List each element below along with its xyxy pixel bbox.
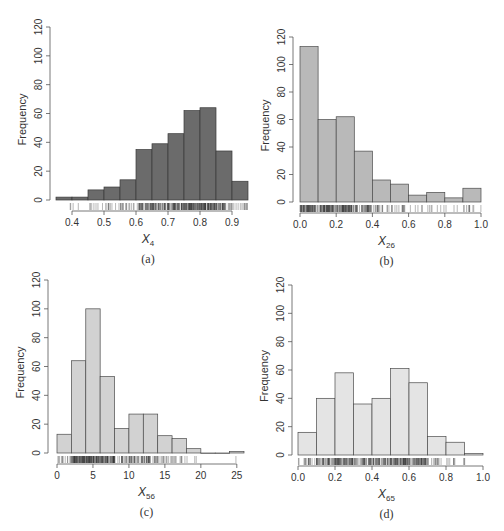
y-tick-label: 20 bbox=[33, 165, 44, 177]
y-tick-label: 40 bbox=[31, 389, 42, 401]
x-tick-label: 1.0 bbox=[474, 219, 488, 230]
y-tick-label: 0 bbox=[275, 452, 286, 458]
histogram-bar bbox=[428, 437, 447, 455]
y-axis-label: Frequency bbox=[258, 350, 270, 402]
histogram-bar bbox=[168, 134, 184, 200]
x-tick-label: 0.4 bbox=[365, 219, 379, 230]
histogram-bar bbox=[158, 436, 172, 453]
histogram-bar bbox=[120, 180, 136, 200]
histogram-bar bbox=[427, 192, 445, 202]
y-axis-label: Frequency bbox=[259, 99, 271, 151]
y-axis: 020406080100120Frequency bbox=[16, 18, 50, 203]
x-tick-label: 0.5 bbox=[97, 217, 111, 228]
x-tick-label: 0.8 bbox=[438, 219, 452, 230]
x-axis: 0.40.50.60.70.80.9X4 bbox=[65, 211, 239, 248]
x-tick-label: 0.0 bbox=[293, 219, 307, 230]
x-axis-label: X4 bbox=[141, 232, 155, 248]
rug-plot bbox=[70, 203, 247, 210]
y-tick-label: 60 bbox=[33, 108, 44, 120]
x-tick-label: 15 bbox=[159, 470, 171, 481]
x-tick-label: 0.9 bbox=[225, 217, 239, 228]
y-tick-label: 40 bbox=[33, 136, 44, 148]
histogram-bar bbox=[354, 404, 373, 455]
histogram-bars bbox=[56, 108, 248, 200]
histogram-bar bbox=[335, 373, 354, 455]
panel-caption: (a) bbox=[141, 252, 154, 266]
histogram-bar bbox=[354, 151, 372, 202]
histogram-bar bbox=[136, 150, 152, 200]
x-axis: 0510152025X56 bbox=[54, 464, 243, 501]
histogram-bar bbox=[115, 428, 129, 453]
x-tick-label: 0.2 bbox=[328, 472, 342, 483]
panel-d: 020406080100120Frequency0.00.20.40.60.81… bbox=[258, 276, 490, 521]
x-axis-label: X26 bbox=[377, 234, 395, 250]
histogram-bar bbox=[71, 361, 85, 453]
y-tick-label: 120 bbox=[33, 18, 44, 35]
x-tick-label: 25 bbox=[231, 470, 243, 481]
rug-plot bbox=[298, 458, 464, 465]
y-axis-label: Frequency bbox=[14, 346, 26, 398]
x-tick-label: 0.7 bbox=[161, 217, 175, 228]
y-tick-label: 0 bbox=[276, 199, 287, 205]
histogram-bar bbox=[463, 188, 481, 202]
histogram-bar bbox=[300, 47, 318, 202]
panel-caption: (d) bbox=[380, 507, 394, 521]
y-tick-label: 100 bbox=[275, 305, 286, 322]
y-tick-label: 80 bbox=[31, 332, 42, 344]
histogram-bars bbox=[57, 309, 244, 454]
histogram-bar bbox=[372, 398, 391, 455]
panel-a: 020406080100120Frequency0.40.50.60.70.80… bbox=[16, 18, 248, 266]
x-axis: 0.00.20.40.60.81.0X26 bbox=[293, 213, 488, 250]
y-tick-label: 120 bbox=[31, 271, 42, 288]
histogram-bar bbox=[215, 453, 229, 454]
x-tick-label: 0.8 bbox=[439, 472, 453, 483]
histogram-bar bbox=[184, 111, 200, 200]
y-axis: 020406080100120Frequency bbox=[259, 28, 293, 205]
y-axis: 020406080100120Frequency bbox=[258, 276, 292, 458]
x-axis-label: X65 bbox=[377, 487, 395, 503]
histogram-bar bbox=[88, 190, 104, 200]
histogram-bar bbox=[409, 383, 428, 455]
x-tick-label: 0.0 bbox=[291, 472, 305, 483]
panel-b: 020406080100120Frequency0.00.20.40.60.81… bbox=[259, 28, 488, 268]
panel-c: 020406080100120Frequency0510152025X56(c) bbox=[14, 271, 244, 519]
y-tick-label: 20 bbox=[276, 169, 287, 181]
y-tick-label: 80 bbox=[276, 86, 287, 98]
panel-caption: (b) bbox=[380, 254, 394, 268]
y-tick-label: 60 bbox=[275, 364, 286, 376]
y-tick-label: 0 bbox=[31, 450, 42, 456]
histogram-bar bbox=[152, 144, 168, 200]
x-tick-label: 0.4 bbox=[65, 217, 79, 228]
y-tick-label: 80 bbox=[33, 79, 44, 91]
y-tick-label: 100 bbox=[31, 300, 42, 317]
histogram-bar bbox=[336, 117, 354, 202]
y-axis-label: Frequency bbox=[16, 93, 28, 145]
y-axis: 020406080100120Frequency bbox=[14, 271, 48, 456]
histogram-bar bbox=[372, 180, 390, 202]
y-tick-label: 100 bbox=[33, 47, 44, 64]
histogram-bar bbox=[318, 120, 336, 203]
x-tick-label: 0.6 bbox=[402, 219, 416, 230]
panel-caption: (c) bbox=[140, 505, 153, 519]
y-tick-label: 20 bbox=[275, 421, 286, 433]
y-tick-label: 120 bbox=[275, 276, 286, 293]
histogram-bar bbox=[72, 197, 88, 200]
y-tick-label: 20 bbox=[31, 418, 42, 430]
histogram-bar bbox=[446, 442, 465, 455]
histogram-bar bbox=[201, 453, 215, 454]
x-axis-label: X56 bbox=[137, 485, 155, 501]
histogram-figure: 020406080100120Frequency0.40.50.60.70.80… bbox=[0, 0, 504, 531]
histogram-bar bbox=[86, 309, 100, 453]
x-tick-label: 1.0 bbox=[476, 472, 490, 483]
y-tick-label: 100 bbox=[276, 56, 287, 73]
rug-plot bbox=[58, 456, 236, 463]
histogram-bar bbox=[143, 414, 157, 453]
histogram-bar bbox=[100, 377, 114, 453]
x-tick-label: 0.2 bbox=[329, 219, 343, 230]
histogram-bars bbox=[300, 47, 481, 202]
x-tick-label: 10 bbox=[123, 470, 135, 481]
histogram-bar bbox=[317, 398, 336, 455]
histogram-bar bbox=[104, 187, 120, 200]
x-tick-label: 5 bbox=[90, 470, 96, 481]
histogram-bar bbox=[232, 181, 248, 200]
